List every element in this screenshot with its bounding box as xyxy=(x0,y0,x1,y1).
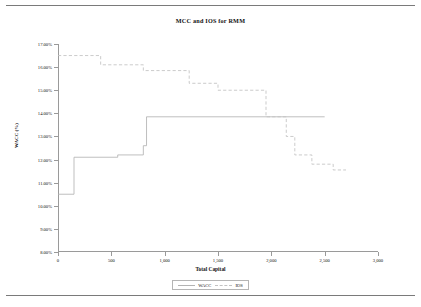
legend-item-wacc[interactable]: WACC xyxy=(178,283,211,288)
series-wacc xyxy=(58,117,325,194)
page-rule-top xyxy=(6,5,415,6)
legend-item-ios[interactable]: IOS xyxy=(215,283,242,288)
y-tick-label: 14.00% xyxy=(38,111,52,116)
x-tick-label: 1,500 xyxy=(213,258,223,263)
y-tick-label: 9.00% xyxy=(40,226,52,231)
x-tick xyxy=(165,252,166,256)
legend-swatch-ios-icon xyxy=(215,285,232,286)
x-tick-label: 0 xyxy=(57,258,59,263)
plot-area: 8.00%9.00%10.00%11.00%12.00%13.00%14.00%… xyxy=(58,44,378,252)
y-tick-label: 10.00% xyxy=(38,203,52,208)
x-tick-label: 3,000 xyxy=(373,258,383,263)
x-tick xyxy=(325,252,326,256)
y-tick-label: 16.00% xyxy=(38,65,52,70)
chart-title: MCC and IOS for RMM xyxy=(0,17,421,24)
x-axis-title: Total Capital xyxy=(0,266,421,272)
x-tick xyxy=(218,252,219,256)
page-rule-bottom xyxy=(6,295,415,296)
x-tick xyxy=(378,252,379,256)
legend: WACCIOS xyxy=(0,280,421,290)
x-tick-label: 500 xyxy=(108,258,115,263)
legend-label: WACC xyxy=(198,283,211,288)
y-tick-label: 13.00% xyxy=(38,134,52,139)
y-tick-label: 15.00% xyxy=(38,88,52,93)
x-tick xyxy=(271,252,272,256)
series-ios xyxy=(58,56,346,170)
y-tick-label: 17.00% xyxy=(38,42,52,47)
y-tick-label: 8.00% xyxy=(40,250,52,255)
x-tick-label: 2,500 xyxy=(319,258,329,263)
y-tick-label: 11.00% xyxy=(38,180,52,185)
y-axis-title: WACC (%) xyxy=(14,123,19,148)
legend-swatch-wacc-icon xyxy=(178,285,195,286)
legend-box: WACCIOS xyxy=(172,280,249,290)
x-tick-label: 1,000 xyxy=(159,258,169,263)
series-lines xyxy=(58,44,378,252)
y-tick-label: 12.00% xyxy=(38,157,52,162)
x-tick xyxy=(111,252,112,256)
x-tick-label: 2,000 xyxy=(266,258,276,263)
legend-label: IOS xyxy=(235,283,242,288)
x-tick xyxy=(58,252,59,256)
